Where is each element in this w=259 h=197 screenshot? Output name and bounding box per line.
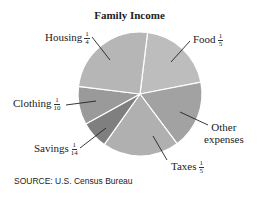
fraction-housing: 14	[84, 31, 90, 46]
label-food-text: Food	[193, 33, 216, 45]
fraction-clothing: 110	[54, 97, 61, 112]
label-savings: Savings114	[34, 142, 78, 157]
source-note: SOURCE: U.S. Census Bureau	[14, 176, 133, 186]
label-clothing-text: Clothing	[13, 97, 52, 109]
label-savings-text: Savings	[34, 142, 69, 154]
fraction-taxes: 15	[199, 160, 205, 175]
denominator: 14	[71, 150, 78, 157]
label-other-line1: Other	[204, 121, 244, 133]
fraction-savings: 114	[71, 142, 78, 157]
pie-slices	[78, 32, 202, 156]
label-food: Food15	[193, 33, 223, 48]
label-housing: Housing14	[45, 31, 90, 46]
fraction-food: 15	[218, 33, 224, 48]
label-other-expenses: Other expenses	[204, 121, 244, 145]
denominator: 4	[85, 39, 89, 46]
label-taxes: Taxes15	[171, 160, 204, 175]
label-clothing: Clothing110	[13, 97, 61, 112]
denominator: 10	[54, 105, 61, 112]
label-taxes-text: Taxes	[171, 160, 197, 172]
denominator: 5	[219, 41, 223, 48]
denominator: 5	[200, 168, 204, 175]
label-housing-text: Housing	[45, 31, 82, 43]
label-other-line2: expenses	[204, 133, 244, 145]
